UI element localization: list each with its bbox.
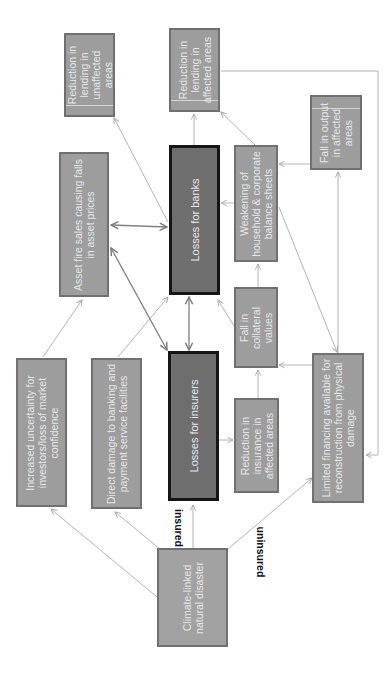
- edge-banks-lending-unaffected: [114, 118, 168, 222]
- node-label: Increased uncertainty for investors/loss…: [24, 361, 60, 505]
- edge-climate-direct-damage: [115, 512, 160, 549]
- node-label: Limited financing available for reconstr…: [320, 355, 356, 501]
- node-label: Fall in output in affected areas: [318, 100, 354, 166]
- edge-climate-uncertainty: [51, 509, 157, 597]
- edge-uncertainty-asset-sales: [43, 300, 82, 357]
- node-label: Reduction in lending in unaffected areas: [66, 36, 114, 114]
- node-direct-damage: Direct damage to banking and payment ser…: [91, 358, 142, 509]
- node-label: Asset fire sales causing falls in asset …: [72, 156, 96, 294]
- node-label: Reduction in lending in affected areas: [177, 32, 213, 108]
- node-fall-collateral: Fall in collateral values: [234, 287, 278, 368]
- edge-asset-sales-banks: [111, 225, 167, 227]
- edge-weakening-financing: [279, 207, 337, 352]
- node-weakening-balance: Weakening of household & corporate balan…: [234, 145, 278, 262]
- node-label: Direct damage to banking and payment ser…: [105, 361, 129, 507]
- node-reduction-insurance: Reduction in insurance in affected areas: [234, 398, 279, 493]
- node-label: Weakening of household & corporate balan…: [238, 148, 274, 260]
- node-losses-insurers: Losses for insurers: [168, 351, 219, 501]
- edge-label-uninsured: uninsured: [255, 527, 267, 578]
- node-label: Losses for insurers: [188, 356, 200, 496]
- node-fall-output: Fall in output in affected areas: [310, 95, 362, 170]
- node-limited-financing: Limited financing available for reconstr…: [312, 353, 364, 503]
- node-label: Fall in collateral values: [238, 297, 274, 359]
- node-asset-fire-sales: Asset fire sales causing falls in asset …: [59, 152, 109, 297]
- node-label: Reduction in insurance in affected areas: [239, 401, 275, 491]
- edge-weakening-lending-affected: [221, 112, 255, 145]
- node-lending-affected: Reduction in lending in affected areas: [169, 28, 220, 112]
- edge-label-insured: insured: [173, 509, 185, 547]
- node-climate-disaster: Climate-linked natural disaster: [157, 548, 228, 647]
- node-increased-uncertainty: Increased uncertainty for investors/loss…: [16, 358, 67, 507]
- node-label: Losses for banks: [189, 150, 201, 290]
- node-lending-unaffected: Reduction in lending in unaffected areas: [64, 33, 115, 117]
- node-losses-banks: Losses for banks: [169, 145, 220, 295]
- node-label: Climate-linked natural disaster: [181, 556, 205, 640]
- edge-collateral-banks: [218, 300, 234, 326]
- edge-asset-sales-insurers: [111, 248, 167, 350]
